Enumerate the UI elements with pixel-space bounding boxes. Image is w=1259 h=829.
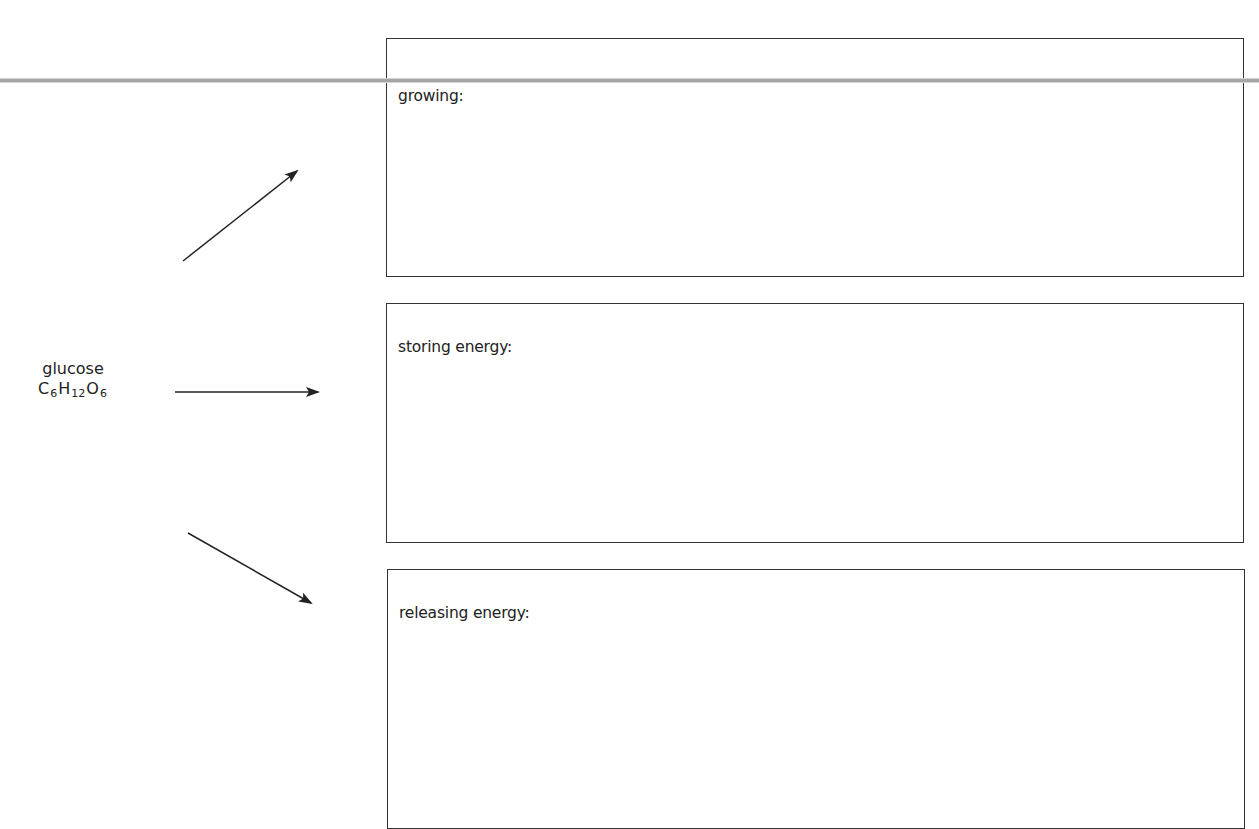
glucose-formula: C6H12O6 — [28, 379, 118, 399]
formula-element-o: O — [86, 379, 99, 398]
storing-energy-label: storing energy: — [398, 338, 512, 356]
formula-count-h: 12 — [71, 387, 85, 400]
releasing-energy-box[interactable]: releasing energy: — [387, 569, 1245, 829]
formula-count-c: 6 — [50, 387, 57, 400]
growing-label: growing: — [398, 87, 464, 105]
arrow-to-releasing-icon — [188, 533, 311, 603]
arrow-to-growing-icon — [183, 171, 297, 261]
growing-box[interactable]: growing: — [386, 38, 1244, 277]
page-divider-line — [0, 79, 1259, 82]
formula-element-c: C — [38, 379, 49, 398]
releasing-energy-label: releasing energy: — [399, 604, 530, 622]
storing-energy-box[interactable]: storing energy: — [386, 303, 1244, 543]
glucose-name: glucose — [28, 359, 118, 379]
glucose-label: glucose C6H12O6 — [28, 359, 118, 399]
formula-element-h: H — [58, 379, 70, 398]
formula-count-o: 6 — [100, 387, 107, 400]
